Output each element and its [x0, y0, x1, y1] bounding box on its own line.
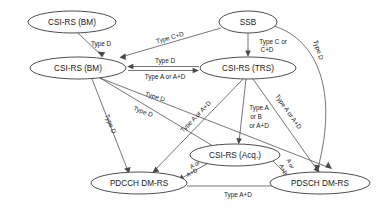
qcl-relationship-diagram: Type D Type C+D Type C or C+D Type D Typ…	[0, 0, 379, 210]
edge-label-bm-to-bm: Type D	[91, 40, 112, 48]
arrow-head-icon	[245, 51, 251, 57]
arrow-head-icon	[153, 166, 160, 172]
node-pdcch-dm-rs[interactable]: PDCCH DM-RS	[91, 172, 187, 194]
node-label: CSI-RS (TRS)	[222, 64, 274, 73]
node-label: CSI-RS (BM)	[54, 64, 102, 73]
edge-label-bm-to-trs: Type A or A+D	[145, 73, 186, 81]
arrow-head-icon	[127, 64, 133, 70]
arrow-head-icon	[236, 138, 242, 145]
arrow-head-icon	[325, 162, 332, 169]
edge-label-bm-to-pdsch: Type D	[132, 104, 154, 119]
edge-label-trs-to-pdcch: Type A or A+D	[179, 99, 213, 134]
edge-label-trs-to-acq-line2: or B	[250, 113, 262, 120]
edge-ssb-to-bm: Type C+D	[120, 28, 222, 60]
node-csi-rs-bm[interactable]: CSI-RS (BM)	[30, 57, 126, 79]
edge-trs-to-acq: Type A or B or A+D	[236, 79, 269, 145]
edge-label-trs-to-bm: Type D	[155, 57, 176, 65]
node-label: CSI-RS (Acq.)	[209, 151, 261, 160]
node-csi-rs-bm-top[interactable]: CSI-RS (BM)	[28, 11, 116, 33]
edge-label-acq-to-pdcch-line2: A+D	[185, 167, 198, 178]
node-label: PDSCH DM-RS	[291, 179, 349, 188]
edge-label-trs-to-acq-line1: Type A	[249, 104, 269, 112]
edge-label-ssb-to-trs-line1: Type C or	[259, 38, 288, 46]
edge-bm-top-to-bm: Type D	[78, 33, 112, 58]
edge-label-trs-to-acq-line3: or A+D	[249, 122, 269, 129]
node-csi-rs-acq[interactable]: CSI-RS (Acq.)	[190, 144, 280, 166]
edge-label-bm-to-pdcch: Type D	[103, 113, 118, 135]
edge-ssb-to-trs: Type C or C+D	[245, 33, 288, 57]
edge-line	[239, 79, 246, 142]
node-label: CSI-RS (BM)	[48, 18, 96, 27]
arrow-head-icon	[98, 52, 106, 58]
diagram-canvas: Type D Type C+D Type C or C+D Type D Typ…	[0, 0, 379, 210]
edge-label-trs-to-pdsch: Type A or A+D	[273, 93, 303, 131]
edge-bm-to-trs: Type A or A+D	[128, 68, 199, 81]
edge-trs-to-bm: Type D	[127, 57, 199, 70]
arrow-head-icon	[120, 53, 126, 60]
node-pdsch-dm-rs[interactable]: PDSCH DM-RS	[270, 172, 370, 194]
arrow-head-icon	[193, 68, 199, 74]
node-ssb[interactable]: SSB	[219, 11, 277, 33]
edge-label-pdcch-to-pdsch: Type A+D	[224, 191, 252, 199]
edge-label-ssb-to-trs-line2: C+D	[261, 46, 274, 53]
node-csi-rs-trs[interactable]: CSI-RS (TRS)	[200, 57, 296, 79]
node-label: SSB	[240, 18, 257, 27]
node-label: PDCCH DM-RS	[110, 179, 169, 188]
